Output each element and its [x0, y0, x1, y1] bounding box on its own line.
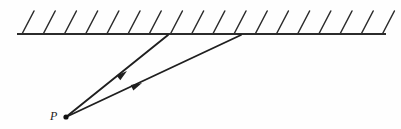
ray-diagram-figure: P: [0, 0, 401, 129]
diagram-canvas: P: [0, 0, 401, 129]
figure-background: [0, 0, 401, 129]
point-source-dot: [63, 114, 68, 119]
point-source-label: P: [49, 109, 58, 123]
